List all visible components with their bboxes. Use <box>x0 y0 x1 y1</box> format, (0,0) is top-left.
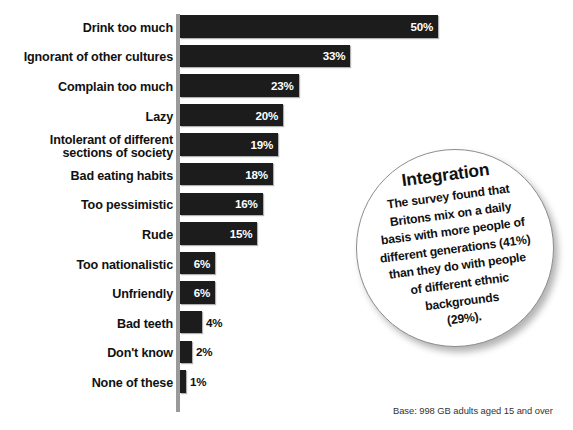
bar-category-label: Bad eating habits <box>5 170 173 183</box>
bar-category-label: None of these <box>5 377 173 390</box>
bar-row: None of these1% <box>0 369 573 399</box>
bar-value-label: 33% <box>323 49 346 62</box>
bar-container: 2% <box>180 341 212 364</box>
bar-row: Lazy20% <box>0 103 573 133</box>
bar: 16% <box>180 193 263 216</box>
bar-container: 4% <box>180 311 222 334</box>
bar <box>180 311 202 334</box>
bar-category-label: Ignorant of other cultures <box>5 52 173 65</box>
bar-container: 18% <box>180 163 273 186</box>
bar-container: 1% <box>180 370 206 393</box>
bar-container: 50% <box>180 15 438 38</box>
integration-callout-body: The survey found thatBritons mix on a da… <box>356 174 554 342</box>
bar-row: Complain too much23% <box>0 73 573 103</box>
bar-category-label: Don't know <box>5 348 173 361</box>
bar-category-label: Drink too much <box>5 22 173 35</box>
bar-value-label: 6% <box>194 286 210 299</box>
bar-value-label: 16% <box>235 197 258 210</box>
bar-row: Ignorant of other cultures33% <box>0 44 573 74</box>
bar-container: 16% <box>180 193 263 216</box>
integration-callout-bubble: Integration The survey found thatBritons… <box>356 149 554 347</box>
bar-value-label: 15% <box>230 227 253 240</box>
bar-container: 23% <box>180 74 299 97</box>
integration-callout-content: Integration The survey found thatBritons… <box>356 149 554 347</box>
bar-value-label: 20% <box>256 109 279 122</box>
bar-category-label: Too pessimistic <box>5 200 173 213</box>
bar: 23% <box>180 74 299 97</box>
base-footnote: Base: 998 GB adults aged 15 and over <box>393 405 553 416</box>
bar-category-label: Lazy <box>5 111 173 124</box>
bar: 6% <box>180 252 215 275</box>
bar-category-label: Unfriendly <box>5 289 173 302</box>
bar: 6% <box>180 281 215 304</box>
bar-value-label: 19% <box>250 138 273 151</box>
bar-value-label: 2% <box>192 345 212 358</box>
bar: 20% <box>180 104 283 127</box>
bar-chart: Drink too much50%Ignorant of other cultu… <box>0 0 573 430</box>
bar: 33% <box>180 45 350 68</box>
bar: 15% <box>180 222 257 245</box>
bar-category-label: Bad teeth <box>5 318 173 331</box>
bar-value-label: 1% <box>186 375 206 388</box>
bar-container: 15% <box>180 222 257 245</box>
bar: 50% <box>180 15 438 38</box>
bar-container: 20% <box>180 104 283 127</box>
bar-row: Don't know2% <box>0 340 573 370</box>
bar-container: 6% <box>180 252 215 275</box>
bar-category-label: Intolerant of different sections of soci… <box>5 134 173 160</box>
bar-category-label: Complain too much <box>5 81 173 94</box>
bar-category-label: Rude <box>5 229 173 242</box>
bar: 18% <box>180 163 273 186</box>
bar-category-label: Too nationalistic <box>5 259 173 272</box>
bar-container: 33% <box>180 45 350 68</box>
bar-container: 6% <box>180 281 215 304</box>
bar-value-label: 50% <box>410 20 433 33</box>
bar: 19% <box>180 133 278 156</box>
bar-container: 19% <box>180 133 278 156</box>
bar-value-label: 6% <box>194 257 210 270</box>
bar-value-label: 18% <box>245 168 268 181</box>
bar-value-label: 23% <box>271 79 294 92</box>
bar-value-label: 4% <box>202 316 222 329</box>
bar-row: Drink too much50% <box>0 14 573 44</box>
bar <box>180 341 192 364</box>
